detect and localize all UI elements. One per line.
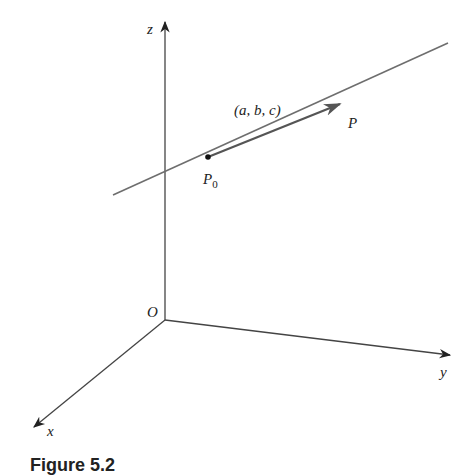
point-p0-dot	[205, 154, 211, 160]
line-l	[113, 43, 448, 195]
y-axis	[165, 320, 450, 355]
point-p-label: P	[347, 115, 357, 131]
y-axis-label: y	[438, 364, 447, 380]
figure-caption: Figure 5.2	[30, 455, 115, 476]
point-p0-letter: P	[202, 171, 212, 187]
point-p0-subscript: 0	[212, 178, 218, 190]
point-p0-label: P0	[202, 171, 218, 190]
x-axis-label: x	[46, 423, 54, 439]
origin-label: O	[147, 304, 158, 320]
z-axis-label: z	[146, 21, 153, 37]
x-axis	[34, 320, 165, 427]
direction-vector-label: (a, b, c)	[234, 102, 281, 119]
